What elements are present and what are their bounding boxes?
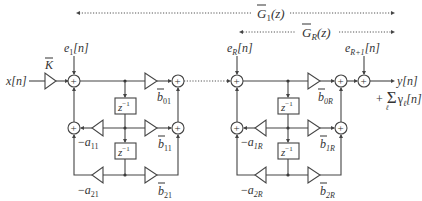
input-label: x[n] bbox=[5, 74, 27, 88]
svg-text:+: + bbox=[71, 122, 77, 134]
svg-text:+: + bbox=[234, 75, 240, 87]
range-arrow-gr: GR(z) bbox=[239, 24, 395, 42]
svg-text:+: + bbox=[175, 75, 181, 87]
a1r-gain bbox=[255, 120, 266, 136]
a2r-gain bbox=[255, 167, 266, 183]
er1-label: eR+1[n] bbox=[345, 41, 380, 57]
b1r-label: b1R bbox=[320, 137, 335, 153]
b2r-gain bbox=[308, 167, 320, 183]
g1-label: G1(z) bbox=[257, 6, 285, 23]
svg-text:+: + bbox=[71, 75, 77, 87]
b2r-label: b2R bbox=[320, 184, 335, 200]
section-r: eR[n] + + b0R z−1 + −a1R bbox=[227, 41, 347, 200]
svg-text:+: + bbox=[338, 75, 344, 87]
output-stage: + eR+1[n] y[n] + Σγℓ[n] ℓ bbox=[345, 41, 422, 112]
e1-label: e1[n] bbox=[64, 41, 89, 57]
b0r-label: b0R bbox=[318, 90, 333, 106]
svg-text:+: + bbox=[234, 122, 240, 134]
b21-gain bbox=[145, 167, 157, 183]
b21-label: b21 bbox=[158, 184, 172, 200]
filter-block-diagram: G1(z) GR(z) x[n] K e1[n] + bbox=[0, 0, 422, 201]
b0r-gain bbox=[308, 73, 320, 89]
section-1: e1[n] + + b01 z−1 + bbox=[64, 41, 184, 200]
a21-gain bbox=[92, 167, 103, 183]
b11-label: b11 bbox=[158, 137, 172, 153]
a21-label: −a21 bbox=[78, 183, 99, 199]
gr-label: GR(z) bbox=[302, 25, 331, 42]
svg-text:+: + bbox=[361, 75, 367, 87]
b01-gain bbox=[145, 73, 157, 89]
a1r-label: −a1R bbox=[241, 135, 263, 151]
output-sum-term: + Σγℓ[n] bbox=[376, 88, 422, 108]
svg-text:K: K bbox=[44, 58, 54, 72]
svg-text:+: + bbox=[175, 122, 181, 134]
b01-label: b01 bbox=[157, 90, 171, 106]
a11-gain bbox=[92, 120, 103, 136]
gain-k-amplifier: K bbox=[44, 58, 56, 89]
er-label: eR[n] bbox=[227, 41, 253, 57]
a2r-label: −a2R bbox=[241, 183, 263, 199]
svg-text:+: + bbox=[338, 122, 344, 134]
range-arrow-g1: G1(z) bbox=[76, 5, 395, 23]
a11-label: −a11 bbox=[78, 135, 98, 151]
b1r-gain bbox=[308, 120, 320, 136]
svg-text:ℓ: ℓ bbox=[385, 104, 389, 112]
b11-gain bbox=[145, 120, 157, 136]
output-label: y[n] bbox=[396, 74, 418, 88]
